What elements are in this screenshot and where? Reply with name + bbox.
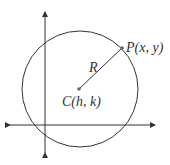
circle-diagram: R P(x, y) C(h, k) [0, 0, 170, 165]
point-p-label: P(x, y) [125, 40, 164, 56]
radius-line [79, 48, 122, 89]
center-point [77, 87, 81, 91]
center-c-label: C(h, k) [62, 94, 101, 110]
radius-point [120, 46, 124, 50]
radius-label: R [88, 60, 98, 75]
